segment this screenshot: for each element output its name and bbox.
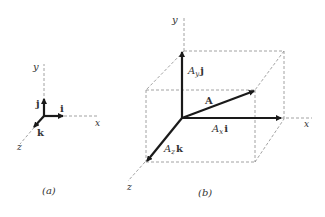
- x-axis-label: x: [95, 118, 100, 128]
- vector-diagram: y x z j i k (a): [0, 0, 325, 217]
- svg-text:Axi: Axi: [211, 123, 228, 136]
- z-axis: [128, 162, 145, 181]
- figure-a: y x z j i k (a): [16, 61, 100, 196]
- az-k-vector: [147, 118, 182, 161]
- y-axis-label: y: [171, 14, 178, 25]
- az-k-label: Azk: [163, 143, 184, 156]
- svg-text:Ayj: Ayj: [187, 65, 204, 78]
- z-axis-label: z: [126, 182, 132, 192]
- y-axis-label: y: [32, 61, 39, 72]
- x-axis-label: x: [304, 119, 309, 129]
- k-label: k: [37, 127, 45, 138]
- k-unit-vector: [34, 116, 44, 127]
- z-axis-label: z: [16, 142, 22, 152]
- svg-text:Azk: Azk: [163, 143, 184, 156]
- caption-b: (b): [198, 187, 212, 198]
- ay-j-label: Ayj: [187, 65, 204, 78]
- caption-a: (a): [42, 185, 56, 196]
- j-label: j: [35, 98, 40, 109]
- vector-a: [182, 91, 254, 118]
- i-label: i: [60, 103, 64, 114]
- ax-i-label: Axi: [211, 123, 228, 136]
- vector-a-label: A: [204, 95, 213, 106]
- figure-b: y x z A Ayj Axi Azk (b): [126, 14, 312, 198]
